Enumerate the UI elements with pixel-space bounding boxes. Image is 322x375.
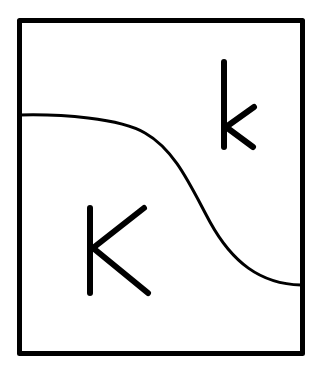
lowercase-k-glyph bbox=[224, 62, 254, 147]
dividing-curve bbox=[20, 115, 301, 285]
diagram-svg bbox=[0, 0, 322, 375]
uppercase-k-glyph bbox=[90, 208, 148, 293]
outer-boundary-box bbox=[20, 21, 303, 354]
diagram-canvas: K k bbox=[0, 0, 322, 375]
